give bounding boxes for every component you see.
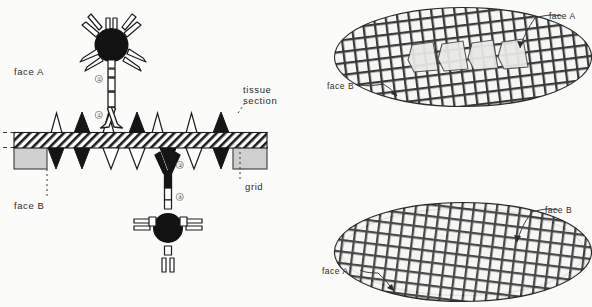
antibody-linker-b xyxy=(165,188,172,200)
grid-bar-left xyxy=(14,147,47,169)
figure-svg: ② ① xyxy=(0,0,592,307)
grid-bar-right xyxy=(233,147,267,169)
face-b-label-top-left: face B xyxy=(327,81,354,91)
face-a-label-left: face A xyxy=(14,66,44,77)
antibody-linker-a xyxy=(108,69,115,91)
tissue-section-band xyxy=(14,133,267,149)
tissue-section-label-1: tissue xyxy=(243,84,271,95)
face-a-label-bottom-left: face A xyxy=(322,266,349,276)
tissue-section-label-2: section xyxy=(243,95,277,106)
face-a-label-top-right: face A xyxy=(549,11,576,21)
face-b-label-bottom-right: face B xyxy=(545,205,572,215)
grid-label: grid xyxy=(245,181,263,192)
face-b-label-left: face B xyxy=(14,200,45,211)
figure-canvas: ② ① xyxy=(0,0,592,307)
gold-particle-a xyxy=(95,28,129,62)
gold-particle-b xyxy=(153,213,183,243)
